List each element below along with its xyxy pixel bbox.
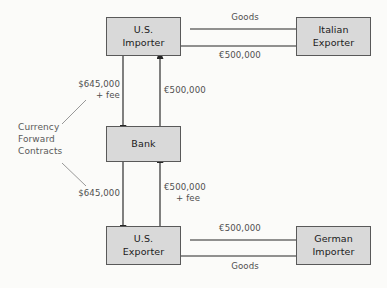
node-italian-exporter[interactable]: Italian Exporter bbox=[296, 17, 371, 56]
node-german-importer-line2: Importer bbox=[312, 246, 354, 259]
node-us-importer[interactable]: U.S. Importer bbox=[106, 17, 181, 56]
node-german-importer[interactable]: German Importer bbox=[296, 226, 371, 265]
label-euro-exporter-bank-line2: + fee bbox=[176, 193, 200, 204]
node-us-exporter-line1: U.S. bbox=[134, 233, 153, 246]
label-usd-importer-bank-line2: + fee bbox=[40, 90, 120, 101]
label-euro-top: €500,000 bbox=[195, 50, 285, 61]
node-bank[interactable]: Bank bbox=[106, 126, 181, 162]
label-euro-exporter-bank-line1: €500,000 bbox=[164, 182, 206, 193]
node-italian-exporter-line2: Exporter bbox=[313, 37, 355, 50]
node-us-exporter-line2: Exporter bbox=[123, 246, 165, 259]
node-us-importer-line2: Importer bbox=[122, 37, 164, 50]
leader-line-lower bbox=[62, 163, 86, 186]
label-usd-bank-exporter: $645,000 bbox=[40, 188, 120, 199]
label-goods-top: Goods bbox=[205, 12, 285, 23]
label-euro-bank-importer: €500,000 bbox=[164, 85, 206, 96]
label-goods-bottom: Goods bbox=[205, 261, 285, 272]
currency-forward-contracts-diagram: U.S. Importer Italian Exporter Bank U.S.… bbox=[0, 0, 387, 288]
label-usd-importer-bank-line1: $645,000 bbox=[40, 79, 120, 90]
node-german-importer-line1: German bbox=[314, 233, 353, 246]
annotation-currency-forward-contracts-line3: Contracts bbox=[18, 145, 62, 157]
annotation-currency-forward-contracts-line1: Currency bbox=[18, 121, 59, 133]
node-italian-exporter-line1: Italian bbox=[318, 24, 348, 37]
node-bank-label: Bank bbox=[131, 138, 155, 151]
label-euro-bottom: €500,000 bbox=[195, 223, 285, 234]
leader-line-upper bbox=[62, 100, 86, 124]
annotation-currency-forward-contracts-line2: Forward bbox=[18, 133, 55, 145]
node-us-exporter[interactable]: U.S. Exporter bbox=[106, 226, 181, 265]
node-us-importer-line1: U.S. bbox=[134, 24, 153, 37]
